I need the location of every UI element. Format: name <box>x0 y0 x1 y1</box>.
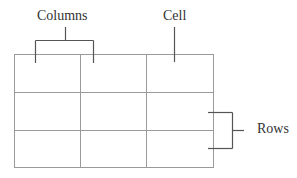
columns-bracket <box>36 27 94 63</box>
table-structure-diagram: Columns Cell Rows <box>0 0 297 178</box>
table-outline <box>15 55 214 168</box>
diagram-canvas <box>0 0 297 178</box>
columns-label: Columns <box>37 9 88 23</box>
cell-label: Cell <box>163 9 186 23</box>
rows-label: Rows <box>257 122 289 136</box>
table-grid <box>15 55 214 168</box>
